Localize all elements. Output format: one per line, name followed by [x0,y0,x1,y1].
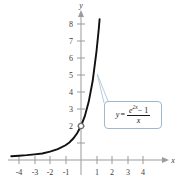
figure-container: -4 -3 -2 -1 1 2 3 4 2 3 4 5 6 7 8 x y y … [0,0,182,184]
equation: y = e2x− 1 x [116,105,150,126]
x-axis-label: x [170,156,175,165]
y-tick-label-2: 2 [69,122,73,131]
y-tick-label-3: 3 [69,105,73,114]
equation-callout-box: y = e2x− 1 x [104,101,162,129]
x-tick-label-4: 4 [141,168,145,177]
x-tick-label-1: 1 [95,168,99,177]
removable-discontinuity-marker [78,123,83,128]
x-tick-label-neg1: -1 [63,168,70,177]
x-tick-label-neg4: -4 [16,168,23,177]
equation-numerator: e2x− 1 [127,105,150,116]
y-tick-label-8: 8 [69,20,73,29]
function-curve [11,19,99,156]
x-tick-label-neg3: -3 [32,168,39,177]
x-tick-label-neg2: -2 [47,168,54,177]
x-tick-label-3: 3 [126,168,130,177]
y-tick-label-5: 5 [69,71,73,80]
numerator-tail: − 1 [138,105,149,114]
x-tick-label-2: 2 [110,168,114,177]
graph-plot: -4 -3 -2 -1 1 2 3 4 2 3 4 5 6 7 8 x y [0,0,182,184]
equation-lhs: y [116,111,120,119]
equation-fraction: e2x− 1 x [127,105,150,126]
y-tick-label-4: 4 [69,88,73,97]
equation-denominator: x [135,116,143,125]
x-axis-arrowhead [162,157,169,163]
equation-equals-sign: = [120,111,125,119]
y-tick-label-6: 6 [69,54,73,63]
y-tick-label-7: 7 [69,37,73,46]
y-axis-label: y [78,1,83,10]
y-axis-arrowhead [78,10,84,17]
